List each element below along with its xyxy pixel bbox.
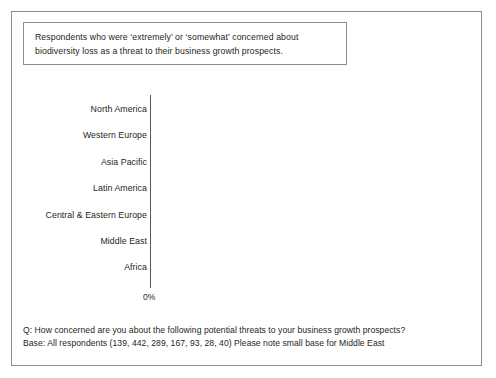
table-row: Middle East 36 <box>12 228 481 254</box>
category-label-western-europe: Western Europe <box>83 122 147 148</box>
category-label-north-america: North America <box>91 96 147 122</box>
chart-title-line-1: Respondents who were ‘extremely’ or ‘som… <box>35 31 336 45</box>
bar-value-central-eastern-europe: 11 <box>158 205 168 225</box>
table-row: Africa 45 <box>12 254 481 280</box>
bar-value-africa: 45 <box>158 258 168 278</box>
table-row: Central & Eastern Europe 11 <box>12 202 481 228</box>
footnote-question-line: Q: How concerned are you about the follo… <box>23 324 472 337</box>
table-row: North America 14 <box>12 96 481 122</box>
category-label-central-eastern-europe: Central & Eastern Europe <box>46 202 147 228</box>
bar-value-asia-pacific: 34 <box>158 152 168 172</box>
figure-frame: Respondents who were ‘extremely’ or ‘som… <box>11 11 482 366</box>
table-row: Western Europe 18 <box>12 122 481 148</box>
axis-tick-label-zero: 0% <box>143 292 156 302</box>
chart-footnote: Q: How concerned are you about the follo… <box>23 324 472 350</box>
table-row: Asia Pacific 34 <box>12 149 481 175</box>
category-label-africa: Africa <box>124 254 147 280</box>
zero-axis-line <box>150 95 151 288</box>
category-label-asia-pacific: Asia Pacific <box>101 149 147 175</box>
category-label-latin-america: Latin America <box>93 175 147 201</box>
table-row: Latin America 53 <box>12 175 481 201</box>
bar-value-latin-america: 53 <box>158 178 168 198</box>
bar-value-middle-east: 36 <box>158 231 168 251</box>
category-label-middle-east: Middle East <box>100 228 147 254</box>
chart-title-line-2: biodiversity loss as a threat to their b… <box>35 45 336 59</box>
bar-rows: North America 14 Western Europe 18 Asia … <box>12 96 481 281</box>
footnote-base-line: Base: All respondents (139, 442, 289, 16… <box>23 337 472 350</box>
bar-chart: North America 14 Western Europe 18 Asia … <box>12 87 481 307</box>
bar-value-western-europe: 18 <box>158 126 168 146</box>
chart-title-box: Respondents who were ‘extremely’ or ‘som… <box>23 22 347 65</box>
bar-value-north-america: 14 <box>158 99 168 119</box>
